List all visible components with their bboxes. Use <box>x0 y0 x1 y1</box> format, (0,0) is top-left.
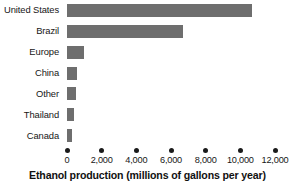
plot-area <box>67 0 275 146</box>
axis-tick-label: 0 <box>65 155 70 166</box>
category-label: Canada <box>0 131 59 141</box>
axis-title: Ethanol production (millions of gallons … <box>0 169 295 181</box>
value-axis: Ethanol production (millions of gallons … <box>0 146 295 191</box>
axis-tick-label: 6,000 <box>160 155 182 166</box>
category-label: Thailand <box>0 110 59 120</box>
category-axis-labels: United StatesBrazilEuropeChinaOtherThail… <box>0 0 63 146</box>
axis-tick-dot <box>169 148 174 153</box>
bar <box>67 4 252 17</box>
bar <box>67 87 76 100</box>
axis-tick-dot <box>203 148 208 153</box>
axis-tick-dot <box>65 148 70 153</box>
axis-tick-dot <box>238 148 243 153</box>
bar <box>67 129 72 142</box>
axis-tick-dot <box>99 148 104 153</box>
category-label: China <box>0 68 59 78</box>
axis-tick-label: 8,000 <box>195 155 217 166</box>
category-label: Brazil <box>0 26 59 36</box>
axis-tick-label: 2,000 <box>91 155 113 166</box>
category-label: Europe <box>0 47 59 57</box>
axis-tick-dot <box>134 148 139 153</box>
category-label: Other <box>0 89 59 99</box>
axis-tick-dot <box>273 148 278 153</box>
bar <box>67 108 74 121</box>
axis-tick-label: 10,000 <box>227 155 254 166</box>
bar <box>67 25 183 38</box>
category-label: United States <box>0 5 59 15</box>
axis-tick-label: 12,000 <box>262 155 289 166</box>
bar <box>67 46 84 59</box>
bar <box>67 67 77 80</box>
axis-tick-label: 4,000 <box>125 155 147 166</box>
bar-chart: United StatesBrazilEuropeChinaOtherThail… <box>0 0 295 191</box>
